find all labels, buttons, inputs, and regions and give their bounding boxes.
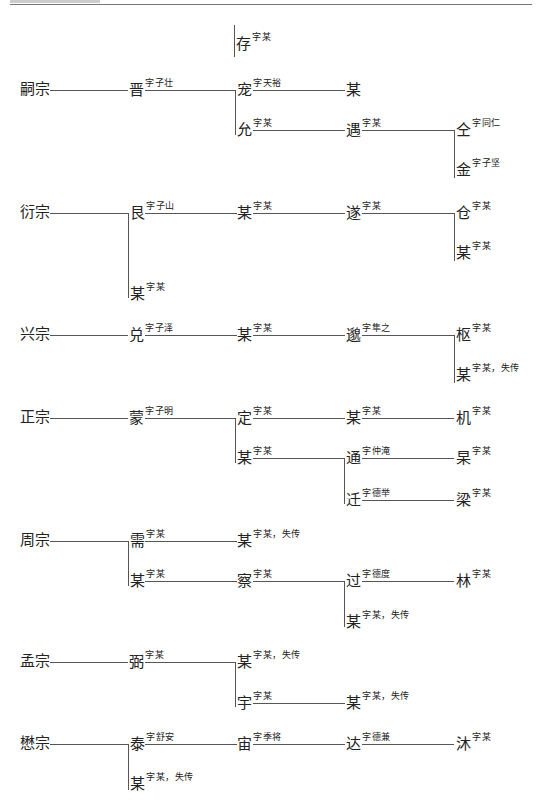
- tree-connector: [50, 541, 128, 542]
- tree-connector: [362, 335, 454, 336]
- person-name: 邈: [346, 326, 361, 344]
- lineage-root-maozong: 懋宗: [20, 736, 50, 751]
- courtesy-name: 字舒安: [146, 732, 175, 742]
- person-name: 遂: [346, 204, 361, 222]
- tree-connector: [362, 213, 454, 214]
- tree-connector: [454, 213, 455, 261]
- lineage-root-xingzong: 兴宗: [20, 327, 50, 342]
- courtesy-name: 字某: [146, 569, 165, 579]
- person-name: 林: [456, 572, 471, 590]
- person-name: 某: [346, 409, 361, 427]
- person-name: 金: [456, 161, 471, 179]
- person-name: 某: [346, 81, 361, 99]
- person-name: 晋: [129, 81, 144, 99]
- courtesy-name: 字某: [253, 446, 272, 456]
- person-name: 梁: [456, 491, 471, 509]
- person-name: 仓: [456, 204, 471, 222]
- tree-connector: [145, 541, 237, 542]
- courtesy-name: 字某: [146, 529, 165, 539]
- lineage-root-yanzong: 衍宗: [20, 205, 50, 220]
- person-node: 杲字某: [456, 450, 491, 466]
- tree-connector: [253, 744, 345, 745]
- person-name: 枢: [456, 326, 471, 344]
- courtesy-name: 字某: [253, 406, 272, 416]
- person-node: 仝字同仁: [456, 122, 501, 138]
- courtesy-name: 字某: [362, 406, 381, 416]
- person-name: 泰: [130, 735, 145, 753]
- header-rule: [10, 4, 532, 5]
- courtesy-name: 字天裕: [253, 78, 282, 88]
- person-node: 某字某，失传: [346, 695, 410, 711]
- courtesy-name: 字季将: [253, 732, 282, 742]
- tree-connector: [344, 581, 345, 627]
- lineage-root-mengzong: 孟宗: [20, 654, 50, 669]
- person-name: 某: [456, 366, 471, 384]
- person-name: 存: [236, 35, 251, 53]
- courtesy-name: 字某，失传: [253, 650, 301, 660]
- courtesy-name: 字某: [253, 201, 272, 211]
- person-name: 机: [456, 409, 471, 427]
- courtesy-name: 字某: [472, 241, 491, 251]
- courtesy-name: 字某，失传: [146, 772, 194, 782]
- tree-connector: [128, 744, 129, 790]
- courtesy-name: 字某，失传: [472, 363, 520, 373]
- tree-connector: [454, 335, 455, 383]
- courtesy-name: 字某: [253, 569, 272, 579]
- courtesy-name: 字子明: [145, 406, 174, 416]
- courtesy-name: 字子山: [146, 201, 175, 211]
- courtesy-name: 字某: [362, 118, 381, 128]
- lineage-root-sizong: 嗣宗: [20, 82, 50, 97]
- person-name: 迁: [346, 491, 361, 509]
- tree-connector: [145, 581, 237, 582]
- person-name: 沐: [456, 735, 471, 753]
- person-node: 林字某: [456, 573, 491, 589]
- tree-connector: [234, 25, 235, 57]
- courtesy-name: 字某: [472, 446, 491, 456]
- person-node: 枢字某: [456, 327, 491, 343]
- person-node: 某字某，失传: [237, 533, 301, 549]
- tree-connector: [50, 662, 128, 663]
- tree-connector: [253, 581, 344, 582]
- person-name: 宇: [237, 694, 252, 712]
- courtesy-name: 字某，失传: [253, 529, 301, 539]
- person-name: 过: [346, 572, 361, 590]
- courtesy-name: 字某: [472, 569, 491, 579]
- courtesy-name: 字某: [253, 118, 272, 128]
- tree-connector: [145, 744, 237, 745]
- person-name: 通: [346, 449, 361, 467]
- courtesy-name: 字某: [472, 732, 491, 742]
- person-name: 杲: [456, 449, 471, 467]
- person-name: 蒙: [129, 409, 144, 427]
- tree-connector: [128, 213, 129, 298]
- tree-connector: [145, 213, 237, 214]
- tree-connector: [253, 335, 345, 336]
- tree-connector: [454, 130, 455, 178]
- person-node: 某字某，失传: [237, 654, 301, 670]
- person-name: 某: [237, 532, 252, 550]
- courtesy-name: 字某: [472, 201, 491, 211]
- courtesy-name: 字隼之: [362, 323, 391, 333]
- person-node: 某字某，失传: [456, 367, 520, 383]
- tree-connector: [145, 90, 235, 91]
- person-node: 仓字某: [456, 205, 491, 221]
- person-node: 金字子坚: [456, 162, 501, 178]
- tree-connector: [50, 213, 128, 214]
- person-name: 兑: [129, 326, 144, 344]
- person-name: 定: [237, 409, 252, 427]
- lineage-root-zhouzong: 周宗: [20, 533, 50, 548]
- person-name: 某: [237, 326, 252, 344]
- person-node: 某字某，失传: [346, 614, 410, 630]
- tree-connector: [235, 418, 236, 463]
- person-name: 允: [237, 121, 252, 139]
- courtesy-name: 字某，失传: [362, 610, 410, 620]
- tree-connector: [253, 458, 344, 459]
- courtesy-name: 字某: [253, 323, 272, 333]
- tree-connector: [253, 90, 345, 91]
- person-node: 存字某: [236, 36, 271, 52]
- person-name: 宠: [237, 81, 252, 99]
- header-running-title: [10, 0, 100, 3]
- courtesy-name: 字某: [472, 323, 491, 333]
- person-name: 某: [237, 449, 252, 467]
- tree-connector: [253, 418, 345, 419]
- courtesy-name: 字德举: [362, 488, 391, 498]
